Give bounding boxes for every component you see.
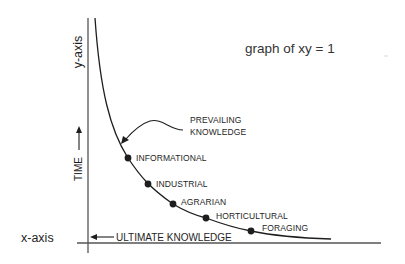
stage-dot <box>170 201 177 208</box>
prevailing-label-line-1: PREVAILING <box>190 115 241 125</box>
time-annotation: TIME <box>73 126 84 181</box>
ultimate-knowledge-annotation: ULTIMATE KNOWLEDGE <box>90 232 232 243</box>
stage-agrarian: AGRARIAN <box>170 197 227 207</box>
stage-label: INFORMATIONAL <box>136 153 207 163</box>
time-label: TIME <box>73 157 84 181</box>
up-arrow-icon <box>76 126 82 133</box>
stage-industrial: INDUSTRIAL <box>145 179 208 189</box>
stage-label: INDUSTRIAL <box>156 179 208 189</box>
prevailing-label-line-2: KNOWLEDGE <box>190 127 246 137</box>
stage-informational: INFORMATIONAL <box>125 153 207 163</box>
stage-label: HORTICULTURAL <box>216 211 288 221</box>
xy-graph-diagram: y-axis x-axis graph of xy = 1 TIME ULTIM… <box>0 0 405 264</box>
ultimate-knowledge-label: ULTIMATE KNOWLEDGE <box>116 232 232 243</box>
stage-horticultural: HORTICULTURAL <box>203 211 288 221</box>
y-axis-label: y-axis <box>71 36 85 69</box>
stage-label: AGRARIAN <box>181 197 226 207</box>
stage-dot <box>248 228 255 235</box>
stage-dot <box>203 215 210 222</box>
stage-label: FORAGING <box>262 223 308 233</box>
x-axis-label: x-axis <box>21 231 54 245</box>
left-arrow-icon <box>90 234 97 240</box>
pointer-arrow-line <box>125 121 183 140</box>
prevailing-knowledge-annotation: PREVAILING KNOWLEDGE <box>121 115 246 144</box>
stage-dot <box>145 181 152 188</box>
stage-dot <box>125 155 132 162</box>
graph-title: graph of xy = 1 <box>245 41 335 56</box>
